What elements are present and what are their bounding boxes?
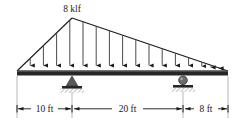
dimension-10ft: 10 ft [17,104,72,114]
beam-loading-diagram: 10 ft 20 ft 8 ft 8 klf [0,0,245,123]
dimension-8ft-label: 8 ft [200,104,213,114]
beam [17,71,228,76]
roller-support [171,76,195,92]
load-magnitude-label: 8 klf [63,4,82,14]
dimension-20ft: 20 ft [74,104,183,114]
dimension-20ft-label: 20 ft [119,104,137,114]
dimension-10ft-label: 10 ft [36,104,54,114]
dimension-8ft: 8 ft [185,104,228,114]
load-arrow-group [30,20,219,68]
pin-support [60,76,84,93]
